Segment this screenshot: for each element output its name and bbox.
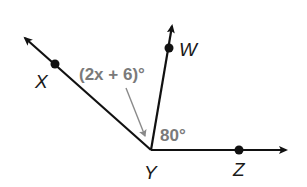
label-y: Y [144,162,158,183]
point-z [235,146,244,155]
label-x: X [34,71,49,92]
label-z: Z [232,159,246,180]
angle-label-xyw: (2x + 6)° [79,65,145,84]
angle-label-wyz: 80° [160,126,186,145]
ray-yx [25,38,151,150]
angle-diagram: X W Y Z (2x + 6)° 80° [0,0,307,187]
angle-pointer-arrow [126,88,145,136]
point-w [165,44,174,53]
point-x [51,60,60,69]
label-w: W [179,39,199,60]
